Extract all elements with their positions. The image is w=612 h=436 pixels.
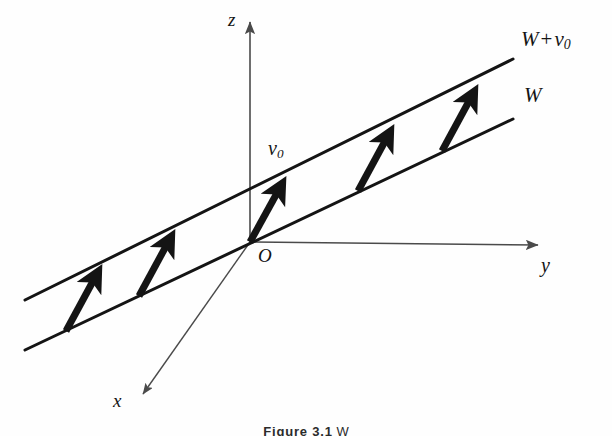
label-axis-y: y <box>541 255 550 275</box>
figure-caption-label: Figure 3.1 <box>263 424 332 436</box>
y-axis <box>250 242 538 245</box>
label-w-term: W <box>521 27 539 51</box>
label-v0-subscript: 0 <box>277 146 284 161</box>
label-subspace-w: W <box>524 85 542 106</box>
label-v-term: v <box>555 27 564 51</box>
vector-arrow-3 <box>250 184 282 242</box>
plus-sign: + <box>539 27 555 51</box>
diagram-canvas <box>0 0 612 436</box>
figure-container: W+v0 W v0 O y z x Figure 3.1 W <box>0 0 612 436</box>
vector-arrow-4 <box>358 132 390 191</box>
vector-arrow-5 <box>442 92 474 151</box>
label-axis-x: x <box>113 391 121 410</box>
figure-caption-text: W <box>336 424 348 436</box>
axes-group <box>143 22 538 394</box>
label-origin: O <box>258 246 272 265</box>
label-axis-z: z <box>228 10 235 29</box>
label-v0-base: v <box>268 137 277 159</box>
translation-vectors-group <box>66 92 474 331</box>
label-v-subscript: 0 <box>564 37 571 52</box>
label-coset-line-w-plus-v0: W+v0 <box>521 29 571 52</box>
label-vector-v0: v0 <box>268 138 283 160</box>
figure-caption: Figure 3.1 W <box>0 424 612 436</box>
